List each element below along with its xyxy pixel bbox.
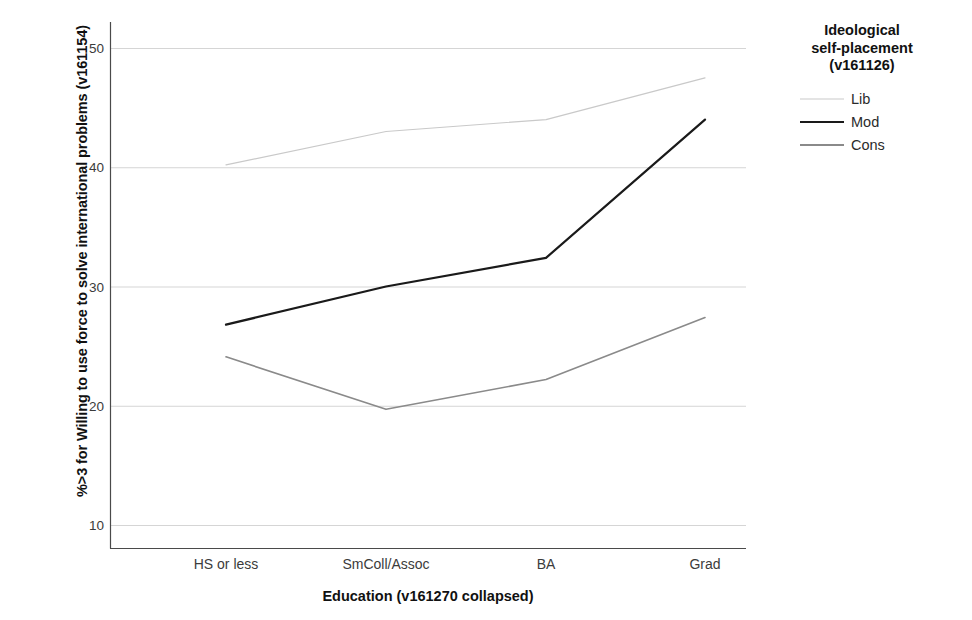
- legend-title-line-1: Ideological: [762, 22, 962, 40]
- legend-line-swatch-mod: [800, 117, 844, 127]
- data-series-layer: [226, 78, 705, 410]
- legend-label-cons: Cons: [851, 137, 885, 153]
- legend: Ideological self-placement (v161126) Lib…: [756, 22, 968, 156]
- line-chart: %>3 for Willing to use force to solve in…: [0, 0, 972, 620]
- series-line-cons: [226, 318, 705, 410]
- legend-title-line-2: self-placement: [762, 40, 962, 58]
- x-tick-hs-or-less: HS or less: [194, 556, 259, 572]
- series-line-lib: [226, 78, 705, 165]
- legend-label-lib: Lib: [851, 91, 870, 107]
- legend-label-mod: Mod: [851, 114, 879, 130]
- legend-title-line-3: (v161126): [762, 57, 962, 75]
- legend-item-mod: Mod: [800, 110, 968, 133]
- legend-item-lib: Lib: [800, 87, 968, 110]
- x-tick-smcoll-assoc: SmColl/Assoc: [342, 556, 429, 572]
- legend-line-swatch-cons: [800, 140, 844, 150]
- gridlines: [110, 49, 746, 526]
- x-tick-ba: BA: [537, 556, 556, 572]
- legend-title: Ideological self-placement (v161126): [756, 22, 968, 75]
- legend-item-cons: Cons: [800, 133, 968, 156]
- x-axis-title: Education (v161270 collapsed): [110, 588, 746, 604]
- x-tick-grad: Grad: [689, 556, 720, 572]
- legend-line-swatch-lib: [800, 94, 844, 104]
- legend-items: Lib Mod Cons: [756, 87, 968, 156]
